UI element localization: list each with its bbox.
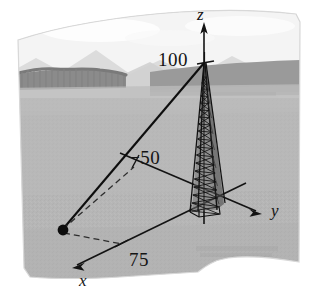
axis-label-x: x: [79, 272, 87, 289]
observer-point: [58, 225, 69, 236]
label-height-100: 100: [158, 50, 188, 69]
figure-canvas: 100 −50 75 z y x: [0, 0, 317, 303]
axis-label-y: y: [271, 202, 279, 219]
axis-label-z: z: [197, 6, 204, 23]
label-y-minus-50: −50: [129, 148, 160, 167]
label-x-75: 75: [129, 250, 149, 269]
